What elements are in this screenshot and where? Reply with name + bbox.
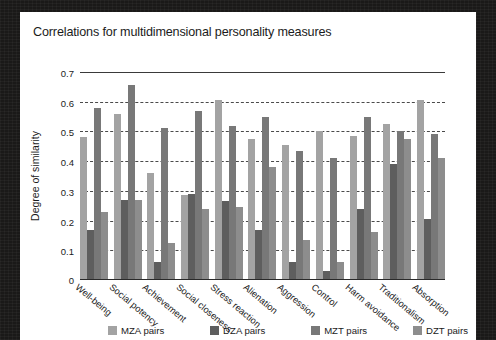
- bar-group: [114, 72, 142, 280]
- bar: [101, 212, 108, 280]
- x-tick-label: Well-being: [74, 282, 114, 318]
- chart-card: Correlations for multidimensional person…: [20, 12, 476, 340]
- bar: [296, 151, 303, 280]
- bar: [114, 114, 121, 280]
- bar: [181, 195, 188, 280]
- y-tick-label: 0.4: [61, 157, 74, 168]
- bar-group: [282, 72, 310, 280]
- legend-item[interactable]: MZA pairs: [108, 325, 164, 336]
- legend-label: MZT pairs: [324, 325, 367, 336]
- legend-swatch-icon: [311, 326, 320, 335]
- y-tick-label: 0.1: [61, 246, 74, 257]
- y-tick-label: 0.7: [61, 68, 74, 79]
- y-tick-label: 0.5: [61, 127, 74, 138]
- bar-series-container: [80, 72, 445, 280]
- bar: [364, 117, 371, 280]
- bar: [222, 201, 229, 280]
- bar: [350, 136, 357, 280]
- bar: [424, 219, 431, 280]
- page-title: Correlations for multidimensional person…: [33, 25, 331, 39]
- legend-item[interactable]: MZT pairs: [311, 325, 367, 336]
- bar: [94, 108, 101, 280]
- bar: [215, 100, 222, 280]
- bar: [417, 100, 424, 280]
- bar: [80, 137, 87, 280]
- screenshot-root: Correlations for multidimensional person…: [0, 0, 496, 340]
- bar-group: [215, 72, 243, 280]
- bar: [337, 262, 344, 280]
- bar: [438, 158, 445, 280]
- bar: [303, 240, 310, 280]
- bar: [87, 230, 94, 281]
- bar: [161, 128, 168, 280]
- bar-group: [417, 72, 445, 280]
- legend-item[interactable]: DZT pairs: [413, 325, 468, 336]
- legend-label: MZA pairs: [121, 325, 164, 336]
- legend-swatch-icon: [413, 326, 422, 335]
- plot-area: 000.10.20.30.40.50.60.7: [80, 72, 445, 280]
- bar: [154, 262, 161, 280]
- bar: [121, 200, 128, 280]
- bar-group: [316, 72, 344, 280]
- bar-group: [147, 72, 175, 280]
- bar: [316, 131, 323, 280]
- legend-label: DZA pairs: [223, 325, 265, 336]
- bar: [397, 131, 404, 280]
- bar: [229, 126, 236, 281]
- y-tick-label: 0: [69, 275, 74, 286]
- y-tick-label: 0.2: [61, 216, 74, 227]
- bar: [202, 209, 209, 280]
- bar: [431, 134, 438, 280]
- legend-label: DZT pairs: [426, 325, 468, 336]
- bar: [248, 139, 255, 280]
- legend-swatch-icon: [108, 326, 117, 335]
- y-tick-label: 0.3: [61, 186, 74, 197]
- bar-group: [80, 72, 108, 280]
- bar: [255, 230, 262, 281]
- bar-group: [350, 72, 378, 280]
- bar: [282, 145, 289, 280]
- bar: [390, 164, 397, 280]
- bar: [262, 117, 269, 280]
- y-tick-label: 0.6: [61, 97, 74, 108]
- x-tick-label: Control: [310, 282, 339, 309]
- bar: [330, 158, 337, 280]
- bar-group: [383, 72, 411, 280]
- bar: [289, 262, 296, 280]
- bar: [195, 111, 202, 280]
- bar: [269, 167, 276, 280]
- bar: [147, 173, 154, 280]
- bar: [404, 139, 411, 280]
- bar: [371, 232, 378, 280]
- bar: [383, 124, 390, 280]
- legend-item[interactable]: DZA pairs: [210, 325, 265, 336]
- bar: [168, 243, 175, 280]
- bar: [236, 207, 243, 280]
- bar: [188, 194, 195, 280]
- bar-group: [181, 72, 209, 280]
- bar: [357, 209, 364, 280]
- bar-group: [248, 72, 276, 280]
- bar: [135, 200, 142, 280]
- y-axis-title: Degree of similarity: [28, 72, 42, 280]
- chart-legend: MZA pairsDZA pairsMZT pairsDZT pairs: [108, 325, 468, 336]
- bar: [128, 85, 135, 280]
- y-axis-title-label: Degree of similarity: [29, 131, 41, 221]
- x-axis-line: [80, 279, 445, 280]
- legend-swatch-icon: [210, 326, 219, 335]
